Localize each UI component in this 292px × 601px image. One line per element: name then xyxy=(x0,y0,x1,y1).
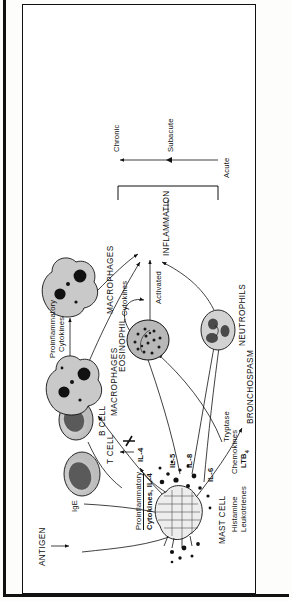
label-subacute: Subacute xyxy=(166,118,175,152)
label-leukotrienes: Leukotrienes xyxy=(239,486,248,532)
label-antigen: ANTIGEN xyxy=(38,527,47,566)
arrow-macrophage2-inflammation xyxy=(96,254,138,292)
label-proinflammatory-mast-2: Cytokines, IL-4 xyxy=(143,473,154,530)
arrow-neutrophil-inflammation xyxy=(162,262,214,310)
label-activated: Activated xyxy=(154,271,163,304)
label-il4-arrow: IL-4 xyxy=(136,448,145,462)
label-proinflammatory-macro-2: Cytokines xyxy=(57,317,66,352)
label-ltb4: LTB4 xyxy=(239,450,250,468)
label-cytokines-eosinophil: Cytokines xyxy=(120,281,129,316)
label-ltb4-subscript: 4 xyxy=(244,450,250,453)
mast-cell-glyph xyxy=(155,461,211,564)
figure-title-column: FIGURE 4.2 — Asthma Inflammatory Cascade… xyxy=(0,0,22,592)
label-neutrophils: NEUTROPHILS xyxy=(238,284,247,346)
label-histamine: Histamine xyxy=(230,496,239,532)
neutrophil-glyph xyxy=(201,310,235,350)
label-acute: Acute xyxy=(222,158,231,178)
arrow-il8-neutrophil xyxy=(192,336,216,474)
label-eosinophil: EOSINOPHIL xyxy=(118,318,127,372)
label-mast-cell: MAST CELL xyxy=(218,495,227,544)
diagram-canvas: ANTIGEN IgE B CELL T CELL IL-4 IL-4 MAST… xyxy=(22,4,254,592)
label-macrophages-right: MACROPHAGES xyxy=(106,246,115,314)
abbreviations-column: Abbreviations: IgE, immunoglobulin E; IL… xyxy=(256,0,290,592)
figure-page: FIGURE 4.2 — Asthma Inflammatory Cascade… xyxy=(0,0,292,601)
page-frame-bottom-rule xyxy=(3,594,289,597)
label-il6: IL-6 xyxy=(206,468,215,482)
label-ltb4-text: LTB xyxy=(239,453,248,468)
label-ige: IgE xyxy=(70,500,79,512)
label-proinflammatory-mast-1: Proinflammatory xyxy=(134,472,143,530)
label-il5: IL-5 xyxy=(168,454,177,468)
label-bronchospasm: BRONCHOSPASM xyxy=(246,350,254,424)
label-chemokines: Chemokines xyxy=(230,430,239,474)
label-inflammation: INFLAMMATION xyxy=(162,191,171,256)
label-il8: IL-8 xyxy=(185,454,194,468)
timeline-tick-mid xyxy=(166,157,172,163)
eosinophil-glyph xyxy=(127,320,169,360)
label-proinflammatory-macro-1: Proinflammatory xyxy=(48,300,57,358)
t-cell-glyph xyxy=(64,452,100,496)
macrophage-left-glyph xyxy=(46,356,101,415)
label-t-cell: T CELL xyxy=(106,434,115,464)
label-b-cell: B CELL xyxy=(98,406,107,436)
tcell-receptor xyxy=(123,436,135,446)
figure-artwork: ANTIGEN IgE B CELL T CELL IL-4 IL-4 MAST… xyxy=(22,4,254,592)
label-chronic: Chronic xyxy=(112,124,121,152)
